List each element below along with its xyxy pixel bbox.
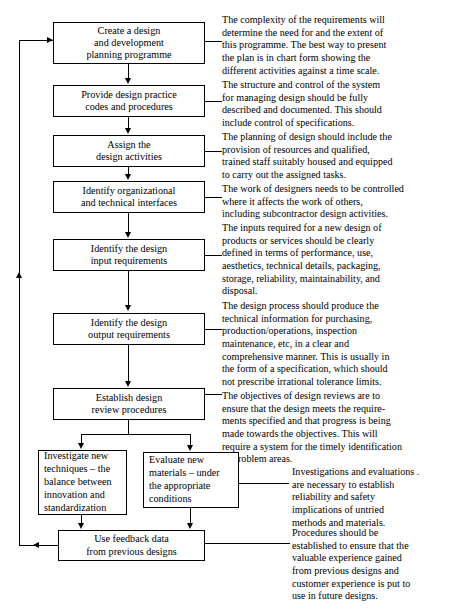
connector-review-split-bar	[81, 434, 191, 435]
leader-line-interfaces	[205, 197, 222, 198]
note-design-practice-codes: The structure and control of the system …	[222, 79, 448, 130]
leader-line-assign	[205, 151, 222, 152]
arrowhead-inputs-to-outputs	[125, 305, 131, 311]
node-assign-design-activities[interactable]: Assign the design activities	[53, 135, 205, 167]
node-label: Provide design practice codes and proced…	[81, 89, 177, 113]
node-design-practice-codes[interactable]: Provide design practice codes and proced…	[53, 85, 205, 117]
leader-line-feedback	[205, 543, 290, 544]
connector-plan-to-practice	[128, 64, 129, 79]
node-label: Identify organizational and technical in…	[81, 185, 177, 209]
arrowhead-investigate-to-feedback	[78, 523, 84, 529]
arrowhead-outputs-to-review	[125, 381, 131, 387]
arrowhead-assign-to-interfaces	[125, 174, 131, 180]
arrowhead-feedback-loop-left	[33, 542, 39, 548]
connector-interfaces-to-inputs	[128, 213, 129, 232]
node-design-output-requirements[interactable]: Identify the design output requirements	[53, 313, 205, 345]
leader-line-inputs	[205, 255, 222, 256]
note-establish-design-review: The objectives of design reviews are to …	[222, 390, 451, 466]
node-label: Investigate new techniques – the balance…	[44, 450, 112, 514]
leader-line-plan	[205, 41, 222, 42]
node-establish-design-review[interactable]: Establish design review procedures	[53, 388, 205, 420]
connector-split-to-evaluate	[190, 434, 191, 445]
arrowhead-interfaces-to-inputs	[125, 232, 131, 238]
leader-line-evaluate	[239, 483, 289, 484]
connector-evaluate-to-feedback	[190, 508, 191, 523]
arrowhead-feedback-loop-up	[16, 272, 22, 278]
note-assign-design-activities: The planning of design should include th…	[222, 131, 448, 182]
leader-line-practice	[205, 101, 222, 102]
node-evaluate-new-materials[interactable]: Evaluate new materials – under the appro…	[143, 452, 239, 508]
node-label: Use feedback data from previous designs	[86, 533, 177, 557]
note-evaluate-new-materials: Investigations and evaluations . are nec…	[292, 466, 450, 529]
arrowhead-plan-to-practice	[125, 78, 131, 84]
node-label: Identify the design output requirements	[88, 317, 170, 341]
note-identify-interfaces: The work of designers needs to be contro…	[222, 183, 451, 221]
leader-line-outputs	[205, 329, 222, 330]
node-label: Establish design review procedures	[92, 392, 167, 416]
feedback-loop-bottom-segment	[19, 545, 59, 546]
connector-outputs-to-review	[128, 345, 129, 381]
note-create-design-plan: The complexity of the requirements will …	[222, 14, 448, 77]
node-label: Create a design and development planning…	[86, 25, 171, 61]
node-label: Evaluate new materials – under the appro…	[149, 454, 220, 505]
note-design-output-requirements: The design process should produce the te…	[222, 300, 451, 389]
node-identify-interfaces[interactable]: Identify organizational and technical in…	[53, 181, 205, 213]
feedback-loop-vertical-rail	[19, 40, 20, 546]
node-label: Identify the design input requirements	[91, 243, 168, 267]
arrowhead-split-to-investigate	[78, 443, 84, 449]
note-use-feedback-data: Procedures should be established to ensu…	[292, 527, 450, 603]
flowchart-canvas: Create a design and development planning…	[0, 0, 451, 611]
connector-investigate-to-feedback	[81, 515, 82, 523]
node-create-design-plan[interactable]: Create a design and development planning…	[53, 22, 205, 64]
node-design-input-requirements[interactable]: Identify the design input requirements	[53, 239, 205, 271]
arrowhead-evaluate-to-feedback	[187, 523, 193, 529]
connector-inputs-to-outputs	[128, 271, 129, 306]
connector-split-to-investigate	[81, 434, 82, 443]
leader-line-review	[205, 394, 222, 395]
node-label: Assign the design activities	[96, 139, 162, 163]
arrowhead-practice-to-assign	[125, 128, 131, 134]
connector-review-to-split	[128, 420, 129, 435]
node-investigate-new-techniques[interactable]: Investigate new techniques – the balance…	[38, 450, 127, 515]
node-use-feedback-data[interactable]: Use feedback data from previous designs	[58, 530, 205, 561]
arrowhead-split-to-evaluate	[187, 445, 193, 451]
note-design-input-requirements: The inputs required for a new design of …	[222, 222, 448, 298]
